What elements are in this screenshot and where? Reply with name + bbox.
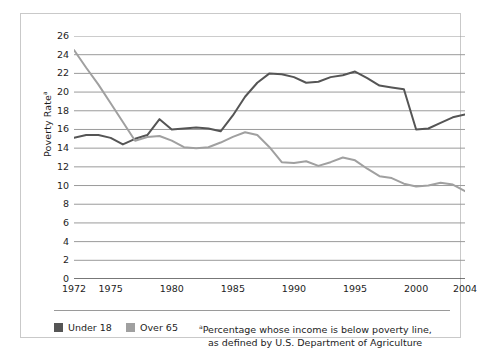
y-tick-label: 10 (47, 181, 69, 191)
x-tick-label: 2004 (453, 283, 477, 294)
legend-swatch-under-18 (54, 323, 63, 332)
y-tick-label: 18 (47, 106, 69, 116)
y-tick-label: 2 (47, 255, 69, 265)
x-tick-label: 1985 (221, 283, 245, 294)
x-tick-label: 1990 (282, 283, 306, 294)
legend-label-over-65: Over 65 (140, 322, 178, 333)
y-axis-tick-labels: 26242220181614121086420 (45, 36, 69, 279)
series-lines (74, 50, 465, 191)
legend-divider (54, 310, 450, 311)
legend-item-over-65: Over 65 (126, 322, 178, 333)
x-axis-tick-labels: 19721975198019851990199520002004 (74, 283, 465, 299)
y-tick-label: 22 (47, 68, 69, 78)
footnote: aPercentage whose income is below povert… (199, 321, 459, 349)
chart-legend: Under 18 Over 65 aPercentage whose incom… (54, 320, 454, 350)
chart-frame: Poverty Ratea 26242220181614121086420 19… (20, 13, 461, 338)
y-tick-label: 16 (47, 124, 69, 134)
y-tick-label: 12 (47, 162, 69, 172)
y-tick-label: 20 (47, 87, 69, 97)
y-tick-label: 4 (47, 237, 69, 247)
y-tick-label: 14 (47, 143, 69, 153)
x-tick-label: 1975 (99, 283, 123, 294)
y-tick-label: 8 (47, 199, 69, 209)
x-tick-label: 2000 (404, 283, 428, 294)
y-tick-label: 24 (47, 50, 69, 60)
footnote-line-1: Percentage whose income is below poverty… (203, 324, 432, 335)
legend-label-under-18: Under 18 (68, 322, 112, 333)
y-tick-label: 26 (47, 31, 69, 41)
legend-item-under-18: Under 18 (54, 322, 112, 333)
poverty-rate-chart-figure: Poverty Ratea 26242220181614121086420 19… (0, 0, 481, 353)
footnote-line-2: as defined by U.S. Department of Agricul… (199, 337, 459, 350)
legend-swatch-over-65 (126, 323, 135, 332)
y-tick-label: 6 (47, 218, 69, 228)
x-tick-label: 1980 (160, 283, 184, 294)
plot-svg (74, 36, 465, 279)
x-tick-label: 1972 (62, 283, 86, 294)
plot-area (74, 36, 465, 279)
x-tick-label: 1995 (343, 283, 367, 294)
